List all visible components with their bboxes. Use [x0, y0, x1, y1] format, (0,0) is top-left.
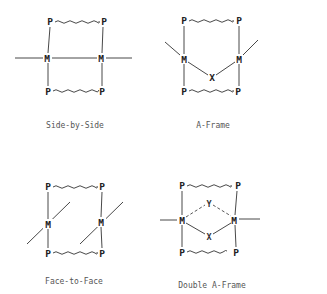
atom-m-right: M	[236, 54, 242, 65]
wavy-bridge-bottom	[53, 90, 99, 93]
atom-p-top-right: P	[101, 16, 107, 27]
atom-x-bridge: X	[209, 72, 215, 83]
panel-a-frame: P P M M X P P A-Frame	[165, 15, 258, 130]
bond-m-y-left-dashed	[186, 205, 205, 217]
atom-p-top-right: P	[236, 15, 242, 26]
caption-double-a-frame: Double A-Frame	[178, 281, 246, 290]
atom-p-bottom-right: P	[233, 247, 239, 258]
atom-m-left: M	[181, 54, 187, 65]
atom-p-top-right: P	[99, 181, 105, 192]
caption-side-by-side: Side-by-Side	[46, 121, 104, 130]
wavy-bridge-bottom	[53, 252, 97, 255]
atom-p-top-right: P	[235, 180, 241, 191]
atom-p-bottom-left: P	[181, 86, 187, 97]
wavy-bridge-bottom	[187, 250, 227, 253]
atom-p-top-left: P	[179, 180, 185, 191]
bond-x-m-right	[216, 62, 235, 75]
bond-p-m-right-top	[101, 192, 102, 217]
wavy-bridge-top	[53, 186, 97, 189]
bond-m-p-right-bottom	[235, 225, 236, 247]
wavy-bridge-top	[187, 185, 231, 188]
caption-a-frame: A-Frame	[196, 121, 230, 130]
atom-p-top-left: P	[181, 15, 187, 26]
wavy-bridge-top	[55, 21, 99, 24]
wavy-bridge-top	[189, 20, 233, 23]
atom-p-top-left: P	[47, 16, 53, 27]
atom-p-bottom-right: P	[235, 86, 241, 97]
wavy-bridge-bottom	[189, 90, 233, 93]
atom-m-right: M	[98, 53, 104, 64]
atom-p-bottom-left: P	[45, 248, 51, 259]
bond-m-x-left	[188, 62, 208, 75]
atom-x-bridge: X	[206, 232, 211, 242]
atom-p-bottom-left: P	[45, 86, 51, 97]
bond-x-m-right	[213, 223, 231, 234]
atom-m-right: M	[98, 217, 104, 228]
atom-m-left: M	[45, 219, 51, 230]
atom-p-top-left: P	[45, 181, 51, 192]
panel-face-to-face: P P M M P P Face-to-Face	[27, 181, 123, 286]
atom-p-bottom-right: P	[99, 86, 105, 97]
bond-axial-left	[165, 42, 180, 55]
bond-m-p-right-bottom	[101, 227, 102, 248]
panel-double-a-frame: P P M M Y X P P Double A-Frame	[160, 180, 260, 290]
bond-p-m-right-top	[235, 191, 237, 215]
caption-face-to-face: Face-to-Face	[45, 277, 103, 286]
atom-m-left: M	[44, 53, 50, 64]
binuclear-complex-diagram: P P M M P P Side-by-Side P P M M X P P A…	[0, 0, 327, 294]
bond-y-m-right-dashed	[213, 205, 231, 216]
bond-m-x-left	[186, 223, 205, 234]
panel-side-by-side: P P M M P P Side-by-Side	[15, 16, 132, 130]
atom-m-left: M	[179, 215, 185, 226]
bond-axial-right	[243, 40, 258, 55]
atom-p-bottom-left: P	[179, 247, 185, 258]
bond-p-m-left-top	[48, 27, 50, 53]
atom-p-bottom-right: P	[99, 248, 105, 259]
atom-y-bridge: Y	[206, 199, 212, 209]
bond-p-m-right-top	[102, 27, 103, 53]
atom-m-right: M	[231, 215, 237, 226]
